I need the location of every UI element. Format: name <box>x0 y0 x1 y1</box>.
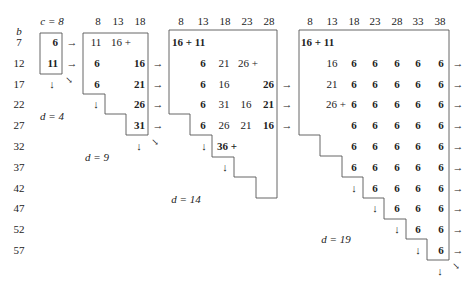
column-header: 8 <box>95 15 101 27</box>
cell: 6 <box>438 182 444 194</box>
cell: 11 <box>48 57 58 69</box>
right-arrow-icon: → <box>153 78 164 90</box>
cell: 16 + 11 <box>172 36 205 48</box>
cell: 21 <box>241 119 252 131</box>
cell: 26 <box>134 98 145 110</box>
cell: 6 <box>394 57 400 69</box>
cell: 16 <box>134 57 145 69</box>
right-arrow-icon: → <box>453 202 464 214</box>
cell: 31 <box>219 98 230 110</box>
down-arrow-icon: ↓ <box>201 140 207 152</box>
column-header: 8 <box>307 15 313 27</box>
cell: 6 <box>438 78 444 90</box>
cell: 36 + <box>217 140 237 152</box>
down-arrow-icon: ↓ <box>49 78 55 90</box>
cell: 6 <box>372 119 378 131</box>
cell: 6 <box>200 119 206 131</box>
cell: 6 <box>53 36 59 48</box>
column-header: 38 <box>435 15 446 27</box>
right-arrow-icon: → <box>453 244 464 256</box>
right-arrow-icon: → <box>153 57 164 69</box>
cell: 6 <box>415 98 421 110</box>
right-arrow-icon: → <box>453 98 464 110</box>
cell: 6 <box>351 161 357 173</box>
cell: 6 <box>200 78 206 90</box>
cell: 6 <box>394 202 400 214</box>
column-header: 28 <box>392 15 403 27</box>
panel-caption: d = 14 <box>171 193 200 205</box>
cell: 6 <box>351 98 357 110</box>
cell: 6 <box>415 140 421 152</box>
cell: 16 <box>219 78 230 90</box>
cell: 16 + 11 <box>301 36 334 48</box>
down-arrow-icon: ↓ <box>222 161 228 173</box>
column-header: 13 <box>327 15 338 27</box>
panel-caption: d = 9 <box>85 151 109 163</box>
down-arrow-icon: ↓ <box>136 140 142 152</box>
cell: 6 <box>415 223 421 235</box>
column-header: 18 <box>349 15 360 27</box>
panel-header-label: c = 8 <box>40 15 63 27</box>
cell: 6 <box>394 98 400 110</box>
cell: 6 <box>415 57 421 69</box>
cell: 21 <box>134 78 145 90</box>
cell: 6 <box>394 119 400 131</box>
down-arrow-icon: ↓ <box>415 244 421 256</box>
right-arrow-icon: → <box>453 119 464 131</box>
cell: 16 + <box>111 36 131 48</box>
cell: 6 <box>415 202 421 214</box>
right-arrow-icon: → <box>453 57 464 69</box>
diagonal-arrow-icon: ↘ <box>452 260 460 272</box>
cell: 6 <box>415 182 421 194</box>
down-arrow-icon: ↓ <box>394 223 400 235</box>
right-arrow-icon: → <box>67 57 78 69</box>
cell: 6 <box>372 161 378 173</box>
cell: 6 <box>438 119 444 131</box>
cell: 6 <box>394 182 400 194</box>
panel-caption: d = 19 <box>321 233 350 245</box>
column-header: 33 <box>413 15 424 27</box>
cell: 21 <box>263 98 274 110</box>
cell: 6 <box>94 78 100 90</box>
cell: 6 <box>372 140 378 152</box>
right-arrow-icon: → <box>453 182 464 194</box>
cell: 6 <box>351 57 357 69</box>
cell: 6 <box>94 57 100 69</box>
cell: 21 <box>219 57 230 69</box>
column-header: 23 <box>370 15 381 27</box>
cell: 6 <box>394 78 400 90</box>
cell: 26 + <box>326 98 346 110</box>
cell: 6 <box>438 202 444 214</box>
cell: 11 <box>91 36 102 48</box>
column-header: 18 <box>220 15 231 27</box>
cell: 31 <box>134 119 145 131</box>
cell: 6 <box>351 78 357 90</box>
down-arrow-icon: ↓ <box>93 98 99 110</box>
cell: 26 <box>219 119 230 131</box>
cell: 26 <box>263 78 274 90</box>
cell: 16 <box>263 119 274 131</box>
column-header: 13 <box>198 15 209 27</box>
diagonal-arrow-icon: ↘ <box>151 136 159 148</box>
cell: 16 <box>327 57 338 69</box>
down-arrow-icon: ↓ <box>437 265 443 277</box>
cell: 21 <box>327 78 338 90</box>
cell: 6 <box>438 140 444 152</box>
cell: 6 <box>351 119 357 131</box>
cell: 6 <box>200 98 206 110</box>
cell: 6 <box>438 161 444 173</box>
cell: 6 <box>394 140 400 152</box>
column-header: 28 <box>264 15 275 27</box>
diagonal-arrow-icon: ↘ <box>65 74 73 86</box>
cell: 6 <box>438 223 444 235</box>
down-arrow-icon: ↓ <box>372 202 378 214</box>
right-arrow-icon: → <box>453 223 464 235</box>
down-arrow-icon: ↓ <box>351 182 357 194</box>
right-arrow-icon: → <box>67 36 78 48</box>
cell: 6 <box>372 78 378 90</box>
cell: 6 <box>372 98 378 110</box>
cell: 6 <box>200 57 206 69</box>
column-header: 23 <box>242 15 253 27</box>
column-header: 13 <box>113 15 124 27</box>
cell: 6 <box>438 244 444 256</box>
